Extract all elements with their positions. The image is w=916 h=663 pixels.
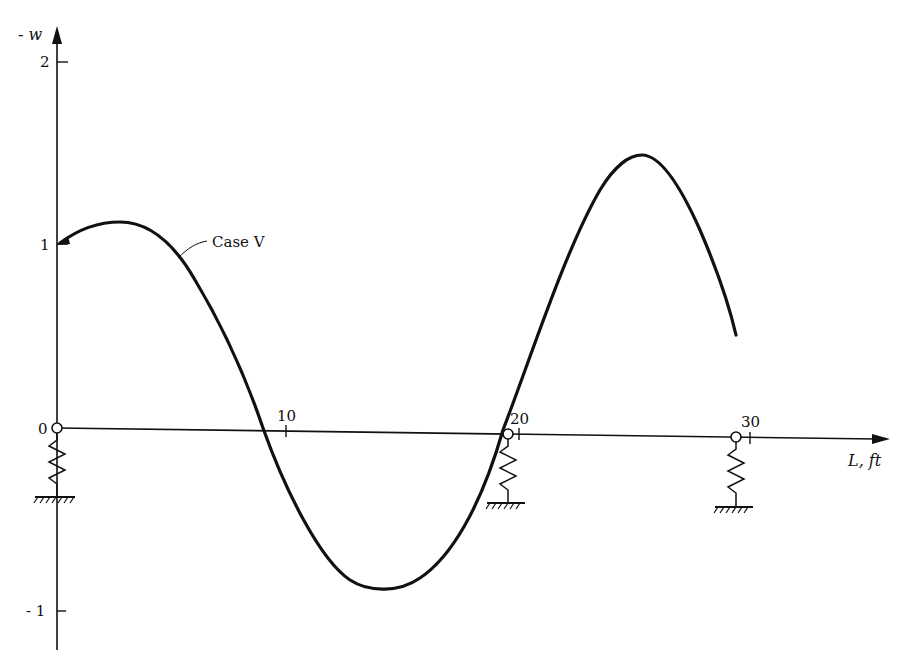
spring-icon [728, 442, 744, 506]
case-label-leader [178, 241, 207, 258]
x-axis-arrow-icon [872, 434, 890, 444]
spring-icon [500, 439, 516, 502]
x-tick-label-30: 30 [741, 413, 760, 431]
y-tick-label-minus-1: - 1 [26, 602, 45, 620]
x-axis-label: L, ft [847, 451, 882, 470]
curve-arrow-icon [57, 236, 70, 245]
y-tick-label-1: 1 [40, 236, 50, 254]
case-v-curve [60, 155, 736, 589]
y-axis-arrow-icon [52, 26, 62, 44]
y-axis: - w 2 1 0 - 1 [18, 25, 68, 650]
x-axis: L, ft 10 20 30 [57, 407, 890, 470]
x-tick-label-20: 20 [510, 410, 529, 428]
pin-icon [731, 432, 741, 442]
spring-support-right [714, 432, 753, 513]
x-tick-label-10: 10 [277, 407, 296, 425]
pin-icon [52, 423, 62, 433]
y-axis-label: - w [18, 25, 42, 44]
deflection-diagram: - w 2 1 0 - 1 L, ft 10 20 30 [0, 0, 916, 663]
curve-label: Case V [212, 233, 266, 251]
y-tick-label-0: 0 [38, 420, 48, 438]
y-tick-label-2: 2 [40, 53, 50, 71]
